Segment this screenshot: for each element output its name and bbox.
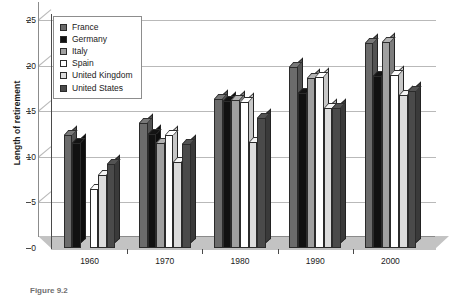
bar-face (173, 162, 182, 248)
bar-side (115, 155, 120, 243)
bar-face (257, 118, 266, 248)
legend-swatch-icon (60, 48, 67, 55)
bar-side (191, 135, 196, 243)
legend-item: United States (60, 82, 132, 94)
x-tick-label: 1990 (280, 256, 350, 266)
x-tick-label: 2000 (355, 256, 425, 266)
legend-label: France (72, 23, 98, 32)
bar-face (315, 77, 324, 248)
bar-face (289, 67, 298, 248)
gridline-depth (38, 100, 52, 112)
bar-face (182, 144, 191, 248)
x-tick-mark (353, 249, 354, 254)
bar-face (223, 101, 232, 248)
bar-face (214, 99, 223, 248)
legend-label: United Kingdom (72, 71, 132, 80)
bar (139, 123, 148, 248)
bar-face (307, 78, 316, 248)
bar (214, 99, 223, 248)
legend-item: Spain (60, 58, 132, 70)
figure-caption: Figure 9.2 (30, 286, 68, 296)
y-tick-label: 10 (14, 153, 36, 162)
bar (223, 101, 232, 248)
bar-side (266, 108, 271, 243)
gridline-depth (38, 9, 52, 21)
bar (90, 189, 99, 248)
bar-side (416, 82, 421, 243)
legend-swatch-icon (60, 72, 67, 79)
bar-face (64, 135, 73, 248)
bar-face (165, 135, 174, 248)
y-tick-label: 5 (14, 198, 36, 207)
bar-face (399, 95, 408, 248)
legend-swatch-icon (60, 36, 67, 43)
bar-face (240, 102, 249, 248)
gridline-depth (38, 146, 52, 158)
bar-face (332, 108, 341, 248)
bar-face (382, 42, 391, 248)
bar-face (148, 134, 157, 248)
bar (332, 108, 341, 248)
gridline-depth (38, 192, 52, 204)
chart-legend: FranceGermanyItalySpainUnited KingdomUni… (53, 16, 142, 99)
y-tick-mark (26, 111, 31, 112)
bar (107, 164, 116, 248)
bar-side (341, 99, 346, 243)
bar-side (81, 134, 86, 243)
legend-label: Germany (72, 35, 107, 44)
y-tick-label: 20 (14, 62, 36, 71)
bar (257, 118, 266, 248)
bar (182, 144, 191, 248)
bar (373, 76, 382, 248)
bar (399, 95, 408, 248)
bar (390, 75, 399, 248)
bar (298, 93, 307, 248)
legend-swatch-icon (60, 60, 67, 67)
bar (408, 91, 417, 248)
bar (365, 43, 374, 248)
x-tick-label: 1960 (55, 256, 125, 266)
gridline-depth (38, 55, 52, 67)
bar-face (98, 175, 107, 248)
x-tick-mark (127, 249, 128, 254)
legend-item: France (60, 21, 132, 33)
bar-face (156, 143, 165, 248)
bar-face (324, 108, 333, 248)
bar (307, 78, 316, 248)
y-axis-ticks: 0510152025 (0, 14, 36, 250)
y-tick-label: 0 (14, 244, 36, 253)
bar (231, 100, 240, 248)
x-tick-label: 1970 (130, 256, 200, 266)
bar-face (249, 142, 258, 248)
bar (324, 108, 333, 248)
bar (72, 143, 81, 248)
bar (98, 175, 107, 248)
x-tick-mark (202, 249, 203, 254)
legend-item: Italy (60, 45, 132, 57)
bar-face (298, 93, 307, 248)
x-tick-mark (278, 249, 279, 254)
legend-item: United Kingdom (60, 70, 132, 82)
y-tick-mark (26, 202, 31, 203)
y-axis-line-back (38, 2, 39, 237)
bar-face (390, 75, 399, 248)
bar-face (90, 189, 99, 248)
bar (165, 135, 174, 248)
legend-item: Germany (60, 33, 132, 45)
bar (382, 42, 391, 248)
bar (64, 135, 73, 248)
y-axis-line (51, 14, 52, 249)
legend-label: Spain (72, 59, 94, 68)
y-tick-label: 15 (14, 107, 36, 116)
x-tick-label: 1980 (205, 256, 275, 266)
bar (315, 77, 324, 248)
legend-swatch-icon (60, 24, 67, 31)
chart-floor-right (435, 236, 449, 249)
bar-face (365, 43, 374, 248)
bar-face (408, 91, 417, 248)
bar (240, 102, 249, 248)
bar (173, 162, 182, 248)
bar-face (231, 100, 240, 248)
bar-face (373, 76, 382, 248)
bar (148, 134, 157, 248)
